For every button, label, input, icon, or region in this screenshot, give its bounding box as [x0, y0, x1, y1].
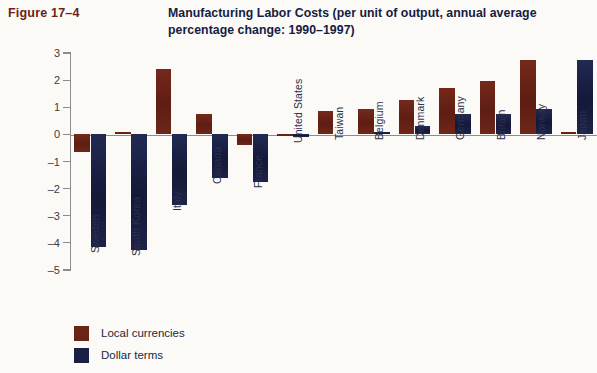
bar-local-currencies: [115, 132, 131, 135]
legend-swatch-dollar-terms: [74, 348, 89, 363]
y-axis-tick-label: 3: [34, 47, 60, 59]
x-axis-category-label: United States: [292, 79, 304, 143]
bar-local-currencies: [561, 132, 577, 135]
x-axis-category-label: Taiwan: [333, 107, 345, 140]
bar-group: Taiwan: [313, 0, 354, 373]
legend-label-local-currencies: Local currencies: [101, 327, 185, 339]
bar-group: United States: [273, 0, 314, 373]
bar-group: France: [232, 0, 273, 373]
x-axis-category-label: South Korea: [130, 196, 142, 255]
bar-local-currencies: [480, 81, 496, 134]
x-axis-category-label: Britain: [495, 110, 507, 140]
bar-group: Belgium: [354, 0, 395, 373]
bar-group: Britain: [475, 0, 516, 373]
bar-local-currencies: [156, 69, 172, 134]
bar-local-currencies: [399, 100, 415, 134]
bar-local-currencies: [520, 60, 536, 135]
y-axis-tick-label: 1: [34, 101, 60, 113]
bar-group: Norway: [516, 0, 557, 373]
chart-plot-area: 3210–1–2–3–4–5 SwedenSouth KoreaItalyCan…: [0, 0, 597, 373]
legend-item-dollar-terms: Dollar terms: [74, 344, 185, 366]
y-axis-tick-label: 0: [34, 128, 60, 140]
bar-local-currencies: [318, 111, 334, 134]
x-axis-category-label: Japan: [576, 111, 588, 140]
x-axis-category-label: France: [252, 155, 264, 188]
y-axis-tick-label: –4: [34, 237, 60, 249]
bar-group: South Korea: [111, 0, 152, 373]
legend-item-local-currencies: Local currencies: [74, 322, 185, 344]
chart-legend: Local currencies Dollar terms: [74, 322, 185, 366]
bar-group: Italy: [151, 0, 192, 373]
bar-local-currencies: [196, 114, 212, 134]
bar-local-currencies: [358, 109, 374, 135]
x-axis-category-label: Norway: [535, 104, 547, 140]
bar-group: Germany: [435, 0, 476, 373]
legend-swatch-local-currencies: [74, 326, 89, 341]
x-axis-category-label: Belgium: [373, 102, 385, 141]
bar-group: Sweden: [70, 0, 111, 373]
bar-group: Canada: [192, 0, 233, 373]
x-axis-category-label: Denmark: [414, 97, 426, 140]
x-axis-category-label: Sweden: [89, 214, 101, 253]
y-axis-tick-label: –1: [34, 156, 60, 168]
x-axis-category-label: Italy: [171, 191, 183, 211]
y-axis-tick-label: –2: [34, 183, 60, 195]
y-axis-tick-label: 2: [34, 74, 60, 86]
bars-layer: SwedenSouth KoreaItalyCanadaFranceUnited…: [70, 0, 597, 373]
y-axis-tick-label: –3: [34, 210, 60, 222]
bar-local-currencies: [237, 134, 253, 145]
bar-local-currencies: [74, 134, 90, 152]
bar-group: Japan: [556, 0, 597, 373]
legend-label-dollar-terms: Dollar terms: [101, 349, 163, 361]
bar-local-currencies: [439, 88, 455, 134]
y-axis-tick-label: –5: [34, 264, 60, 276]
bar-group: Denmark: [394, 0, 435, 373]
x-axis-category-label: Germany: [454, 96, 466, 140]
x-axis-category-label: Canada: [211, 146, 223, 183]
bar-local-currencies: [277, 134, 293, 135]
